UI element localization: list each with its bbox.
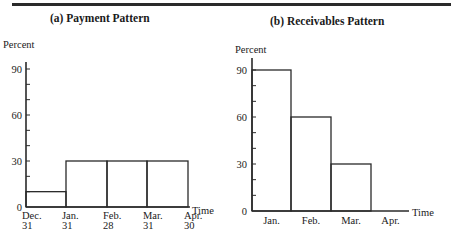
charts-canvas: (a) Payment PatternPercent0306090TimeDec… — [0, 0, 451, 248]
x-tick-label: 30 — [184, 220, 195, 231]
bar — [252, 70, 291, 211]
y-tick-label: 30 — [237, 159, 248, 170]
x-tick-label: 31 — [62, 220, 73, 231]
x-tick-label: Apr. — [381, 215, 399, 226]
payment-pattern-chart: (a) Payment PatternPercent0306090TimeDec… — [3, 12, 214, 231]
bar — [331, 164, 371, 211]
y-tick-label: 90 — [12, 64, 23, 75]
y-axis-label: Percent — [3, 39, 35, 50]
x-tick-label: Jan. — [263, 215, 280, 226]
x-tick-label: Feb. — [302, 215, 320, 226]
bar — [147, 161, 188, 207]
x-tick-label: 31 — [22, 220, 33, 231]
y-tick-label: 60 — [12, 110, 23, 121]
receivables-pattern-chart: (b) Receivables PatternPercent0306090Tim… — [235, 15, 434, 226]
y-tick-label: 90 — [237, 65, 248, 76]
y-tick-label: 30 — [12, 156, 23, 167]
chart-title: (a) Payment Pattern — [50, 12, 150, 25]
bar — [26, 192, 66, 207]
x-axis-label: Time — [412, 207, 434, 218]
y-axis-label: Percent — [235, 44, 267, 55]
y-tick-label: 60 — [237, 112, 248, 123]
bar — [66, 161, 107, 207]
x-tick-label: 28 — [103, 220, 114, 231]
y-tick-label: 0 — [242, 206, 247, 217]
bar — [107, 161, 147, 207]
x-tick-label: Mar. — [341, 215, 361, 226]
x-tick-label: 31 — [143, 220, 154, 231]
chart-title: (b) Receivables Pattern — [270, 15, 385, 28]
bar — [291, 117, 331, 211]
